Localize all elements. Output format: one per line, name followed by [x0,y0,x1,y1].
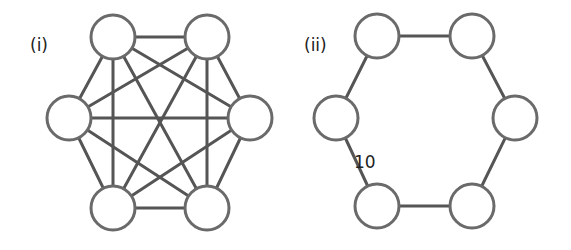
node-A [355,14,399,58]
graph-diagram: (i)(ii)10 [0,0,571,250]
node-E [91,186,135,230]
node-E [355,184,399,228]
node-D [450,184,494,228]
graph-label: (i) [30,35,48,55]
complete-graph: (i) [30,15,272,230]
node-F [314,96,358,140]
node-C [228,96,272,140]
edge-weight-label: 10 [354,152,376,172]
diagram-canvas: (i)(ii)10 [0,0,571,250]
node-F [47,96,91,140]
cycle-graph: (ii)10 [304,14,537,228]
edges [336,36,515,206]
nodes [314,14,537,228]
node-D [185,186,229,230]
edges [69,37,250,208]
node-C [493,96,537,140]
node-A [91,15,135,59]
node-B [450,14,494,58]
graph-label: (ii) [304,35,327,55]
node-B [185,15,229,59]
